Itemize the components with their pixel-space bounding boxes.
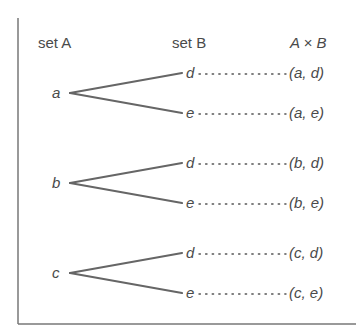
header-set-a: set A	[38, 34, 71, 51]
ordered-pair: (a, d)	[289, 64, 324, 81]
set-a-element: a	[52, 84, 60, 101]
tree-branch-line	[70, 273, 182, 293]
set-b-element: e	[186, 194, 194, 211]
ordered-pair: (c, e)	[289, 284, 323, 301]
ordered-pair: (b, d)	[289, 154, 324, 171]
tree-branch-line	[70, 93, 182, 113]
set-b-element: e	[186, 284, 194, 301]
ordered-pair: (c, d)	[289, 244, 323, 261]
tree-branch-line	[70, 73, 182, 93]
tree-branch-line	[70, 253, 182, 273]
ordered-pair: (b, e)	[289, 194, 324, 211]
set-b-element: d	[186, 244, 195, 261]
tree-branch-line	[70, 183, 182, 203]
header-product: A × B	[289, 34, 327, 51]
set-a-element: b	[52, 174, 60, 191]
set-b-element: e	[186, 104, 194, 121]
tree-branch-line	[70, 163, 182, 183]
set-b-element: d	[186, 64, 195, 81]
set-b-element: d	[186, 154, 195, 171]
header-set-b: set B	[172, 34, 206, 51]
set-a-element: c	[52, 264, 60, 281]
tree-diagram: set A set B A × B ad(a, d)e(a, e)bd(b, d…	[0, 0, 356, 336]
ordered-pair: (a, e)	[289, 104, 324, 121]
